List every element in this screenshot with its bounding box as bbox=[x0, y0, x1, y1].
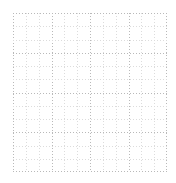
grid-line-horizontal-9 bbox=[13, 132, 167, 133]
grid-canvas bbox=[0, 0, 176, 183]
grid-line-horizontal-0 bbox=[13, 13, 167, 14]
grid-line-horizontal-4 bbox=[13, 66, 167, 67]
grid-line-horizontal-12 bbox=[13, 171, 167, 172]
grid-line-horizontal-8 bbox=[13, 119, 167, 120]
grid-line-horizontal-6 bbox=[13, 93, 167, 94]
grid-line-horizontal-10 bbox=[13, 146, 167, 147]
grid-area bbox=[13, 13, 167, 172]
grid-line-horizontal-1 bbox=[13, 26, 167, 27]
grid-line-horizontal-2 bbox=[13, 40, 167, 41]
grid-line-horizontal-5 bbox=[13, 79, 167, 80]
grid-line-horizontal-3 bbox=[13, 53, 167, 54]
grid-line-horizontal-11 bbox=[13, 159, 167, 160]
grid-line-horizontal-7 bbox=[13, 106, 167, 107]
